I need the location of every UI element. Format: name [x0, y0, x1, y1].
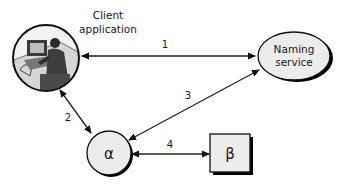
edge-2: 2	[60, 90, 91, 133]
beta-label: β	[225, 145, 235, 163]
edge-4: 4	[132, 139, 209, 154]
naming-service-label-line1: Naming	[274, 43, 315, 55]
person-at-computer-icon	[10, 20, 85, 96]
edge-1: 1	[82, 39, 255, 56]
edge-1-label: 1	[162, 39, 168, 50]
naming-service-label-line2: service	[275, 56, 313, 68]
edge-2-label: 2	[65, 112, 71, 123]
beta-node: β	[210, 134, 253, 175]
edge-4-label: 4	[167, 139, 173, 150]
edge-3: 3	[129, 70, 259, 140]
diagram-canvas: 1 2 3 4	[0, 0, 346, 186]
edge-3-label: 3	[185, 90, 191, 101]
client-label-line1: Client	[93, 9, 123, 21]
client-label-line2: application	[79, 23, 137, 35]
alpha-label: α	[104, 145, 114, 163]
naming-service-node: Naming service	[258, 32, 333, 82]
alpha-node: α	[87, 131, 133, 177]
client-application-node: Client application	[10, 9, 137, 96]
